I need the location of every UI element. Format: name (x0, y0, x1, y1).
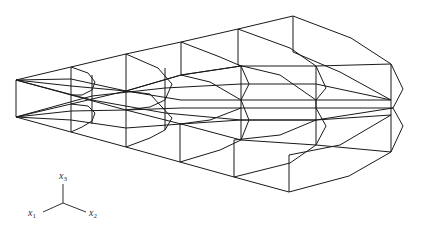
axis-triad: x3 x1 x2 (27, 170, 97, 220)
x3-axis-label: x3 (58, 170, 67, 183)
wireframe-diagram: x3 x1 x2 (0, 0, 421, 230)
x2-axis-label: x2 (88, 207, 97, 220)
x1-axis-line (43, 203, 63, 212)
x1-axis-label: x1 (27, 207, 36, 220)
wireframe-mesh (16, 16, 403, 192)
x2-axis-line (63, 203, 86, 212)
